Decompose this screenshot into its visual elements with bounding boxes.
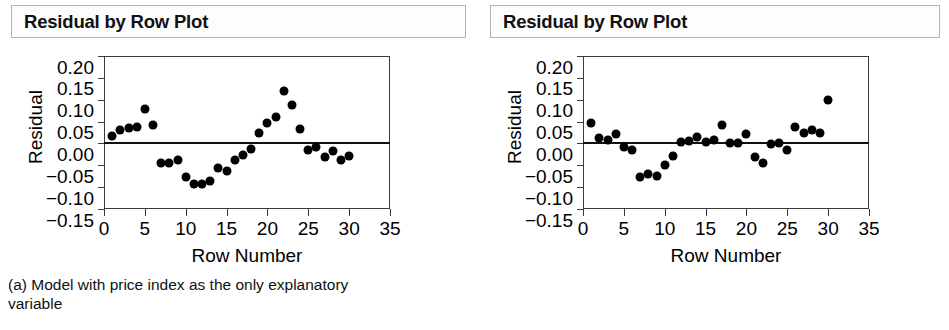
x-tick-label: 20 (736, 219, 757, 238)
y-tick-label: 0.20 (536, 58, 573, 77)
scatter-point (660, 161, 669, 170)
y-tick-label: 0.00 (536, 145, 573, 164)
panel-b-y-axis-label: Residual (504, 67, 526, 187)
x-tick-label: 20 (257, 219, 278, 238)
x-tick-mark (390, 209, 391, 216)
scatter-point (717, 121, 726, 130)
x-tick-mark (624, 209, 625, 216)
y-tick-label: −0.05 (46, 167, 94, 186)
y-tick-label: −0.10 (525, 189, 573, 208)
y-tick-mark (577, 165, 584, 166)
x-tick-mark (186, 209, 187, 216)
x-tick-label: 35 (858, 219, 879, 238)
y-tick-label: 0.15 (536, 79, 573, 98)
scatter-point (815, 129, 824, 138)
scatter-point (775, 138, 784, 147)
panel-a-x-axis-label: Row Number (192, 245, 303, 267)
y-tick-mark (98, 100, 105, 101)
y-tick-label: 0.05 (536, 123, 573, 142)
panel-b-x-axis-label: Row Number (671, 245, 782, 267)
scatter-point (140, 105, 149, 114)
x-tick-label: 5 (140, 219, 151, 238)
x-tick-mark (104, 209, 105, 216)
x-tick-label: 30 (339, 219, 360, 238)
scatter-point (255, 128, 264, 137)
x-tick-mark (787, 209, 788, 216)
y-tick-mark (98, 56, 105, 57)
y-tick-label: 0.10 (536, 101, 573, 120)
scatter-point (132, 122, 141, 131)
y-tick-mark (98, 122, 105, 123)
scatter-point (296, 125, 305, 134)
panel-a-y-axis-label: Residual (25, 67, 47, 187)
scatter-point (181, 173, 190, 182)
panel-b-title-box: Residual by Row Plot (490, 5, 940, 38)
y-tick-mark (577, 122, 584, 123)
panel-a-title-box: Residual by Row Plot (11, 5, 466, 38)
scatter-point (287, 100, 296, 109)
y-tick-label: 0.20 (57, 58, 94, 77)
x-tick-label: 0 (99, 219, 110, 238)
scatter-point (320, 152, 329, 161)
y-tick-mark (98, 78, 105, 79)
x-tick-label: 10 (175, 219, 196, 238)
scatter-point (328, 146, 337, 155)
panel-b: Residual by Row Plot Residual 0.200.150.… (474, 0, 949, 330)
x-tick-label: 30 (818, 219, 839, 238)
scatter-point (742, 130, 751, 139)
scatter-point (206, 176, 215, 185)
x-tick-label: 0 (578, 219, 589, 238)
scatter-point (668, 152, 677, 161)
panel-a-plot-frame (104, 56, 390, 209)
x-tick-mark (828, 209, 829, 216)
x-tick-mark (869, 209, 870, 216)
y-tick-label: −0.15 (46, 211, 94, 230)
scatter-point (345, 151, 354, 160)
scatter-point (238, 150, 247, 159)
x-tick-mark (349, 209, 350, 216)
y-tick-label: −0.15 (525, 211, 573, 230)
scatter-point (628, 145, 637, 154)
y-tick-label: 0.10 (57, 101, 94, 120)
scatter-point (173, 156, 182, 165)
figure-panels: Residual by Row Plot Residual 0.200.150.… (0, 0, 949, 330)
x-tick-mark (746, 209, 747, 216)
scatter-point (652, 171, 661, 180)
scatter-point (734, 138, 743, 147)
scatter-point (263, 119, 272, 128)
scatter-point (149, 121, 158, 130)
x-tick-label: 15 (695, 219, 716, 238)
scatter-point (709, 136, 718, 145)
y-tick-label: −0.10 (46, 189, 94, 208)
scatter-point (611, 129, 620, 138)
scatter-point (230, 156, 239, 165)
scatter-point (279, 86, 288, 95)
panel-a-caption-line1: (a) Model with price index as the only e… (8, 275, 466, 294)
x-tick-label: 35 (379, 219, 400, 238)
y-tick-mark (577, 187, 584, 188)
y-tick-label: 0.15 (57, 79, 94, 98)
y-tick-label: 0.05 (57, 123, 94, 142)
panel-a: Residual by Row Plot Residual 0.200.150.… (0, 0, 474, 330)
scatter-point (271, 112, 280, 121)
y-tick-mark (98, 165, 105, 166)
panel-b-title: Residual by Row Plot (503, 11, 687, 33)
y-tick-label: −0.05 (525, 167, 573, 186)
x-tick-mark (583, 209, 584, 216)
x-tick-label: 5 (619, 219, 630, 238)
x-tick-mark (706, 209, 707, 216)
x-tick-label: 25 (298, 219, 319, 238)
y-tick-mark (577, 100, 584, 101)
y-tick-mark (577, 78, 584, 79)
panel-a-title: Residual by Row Plot (24, 11, 208, 33)
y-tick-mark (577, 56, 584, 57)
x-tick-label: 15 (216, 219, 237, 238)
panel-b-plot-frame (583, 56, 869, 209)
x-tick-label: 25 (777, 219, 798, 238)
scatter-point (603, 136, 612, 145)
x-tick-mark (227, 209, 228, 216)
x-tick-mark (145, 209, 146, 216)
x-tick-mark (308, 209, 309, 216)
scatter-point (108, 131, 117, 140)
scatter-point (587, 118, 596, 127)
